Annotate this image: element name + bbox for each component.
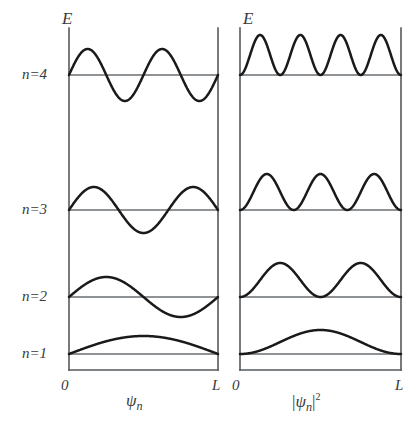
psi-symbol-sq: ψ: [295, 392, 306, 411]
length-label-right: L: [395, 378, 403, 393]
x-axis-caption-probability: |ψn|2: [292, 392, 321, 413]
level-label-n3-left: n=3: [22, 202, 47, 217]
figure-root: E n=4 n=3 n=2 n=1 0 L ψn E 0 L |ψn|2: [0, 0, 418, 424]
origin-label-right: 0: [232, 378, 240, 393]
curve-n3: [240, 174, 401, 210]
length-label-left: L: [212, 378, 220, 393]
energy-axis-label-left: E: [62, 10, 72, 27]
curve-n1: [240, 330, 401, 354]
level-label-n1-left: n=1: [22, 346, 47, 361]
psi-subscript: n: [137, 399, 143, 413]
curve-n4: [240, 35, 401, 75]
energy-axis-label-right: E: [243, 10, 253, 27]
wavefunction-panel: [69, 28, 218, 370]
particle-in-a-box-figure: [0, 0, 418, 424]
square-exponent: 2: [316, 391, 321, 402]
curve-n1: [69, 336, 218, 354]
origin-label-left: 0: [61, 378, 69, 393]
x-axis-caption-wavefunction: ψn: [126, 392, 143, 413]
probability-panel: [240, 28, 401, 370]
psi-symbol: ψ: [126, 391, 137, 410]
curve-n2: [240, 263, 401, 297]
level-label-n2-left: n=2: [22, 289, 47, 304]
level-label-n4-left: n=4: [22, 67, 47, 82]
